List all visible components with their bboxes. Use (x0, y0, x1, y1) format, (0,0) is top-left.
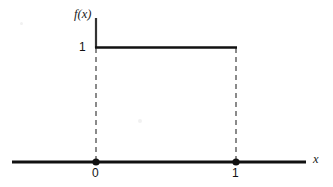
plot-canvas (0, 0, 333, 187)
y-tick-label-1: 1 (79, 41, 86, 53)
point-marker-at-one (232, 158, 239, 165)
scan-speck (138, 119, 142, 123)
point-marker-at-zero (92, 158, 99, 165)
x-tick-label-1: 1 (232, 167, 239, 179)
y-axis-label: f(x) (74, 8, 91, 21)
uniform-density-figure: f(x) x 1 0 1 (0, 0, 333, 187)
x-axis-label: x (313, 153, 319, 166)
x-tick-label-0: 0 (92, 167, 99, 179)
scan-speck (20, 22, 23, 25)
